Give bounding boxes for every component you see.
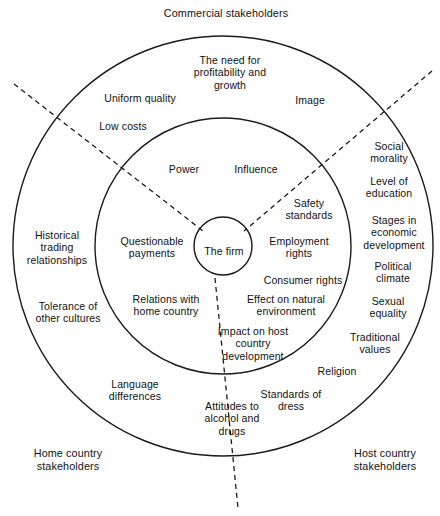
religion-label: Religion [318,365,357,377]
divider-upper-left [14,84,203,231]
questionable-payments-label: Questionable payments [120,235,183,260]
impact-on-host-country-development-label: Impact on host country development [218,325,288,362]
sexual-equality-label: Sexual equality [369,295,406,320]
consumer-rights-label: Consumer rights [264,274,343,286]
the-firm-label: The firm [204,245,243,257]
host-country-stakeholders-label: Host country stakeholders [354,447,417,472]
level-of-education-label: Level of education [366,175,412,200]
low-costs-label: Low costs [99,120,147,132]
language-differences-label: Language differences [109,378,161,403]
home-country-stakeholders-label: Home country stakeholders [34,447,103,472]
power-label: Power [169,163,199,175]
uniform-quality-label: Uniform quality [104,92,176,104]
image-label: Image [295,94,325,106]
effect-on-natural-environment-label: Effect on natural environment [247,293,325,318]
political-climate-label: Political climate [374,260,411,285]
influence-label: Influence [234,163,278,175]
traditional-values-label: Traditional values [350,331,400,356]
historical-trading-relationships-label: Historical trading relationships [27,229,87,266]
commercial-stakeholders-label: Commercial stakeholders [164,7,288,20]
sector-divider-lines [14,71,432,508]
relations-with-home-country-label: Relations with home country [133,293,200,318]
stakeholder-rings-diagram: Commercial stakeholdersHome country stak… [0,0,440,516]
divider-bottom [215,278,238,508]
social-morality-label: Social morality [370,140,408,165]
standards-of-dress-label: Standards of dress [261,388,322,413]
safety-standards-label: Safety standards [285,197,332,222]
attitudes-to-alcohol-and-drugs-label: Attitudes to alcohol and drugs [205,400,260,437]
stages-in-economic-development-label: Stages in economic development [363,214,424,251]
tolerance-of-other-cultures-label: Tolerance of other cultures [35,300,100,325]
the-need-for-profitability-and-growth-label: The need for profitability and growth [194,54,266,91]
employment-rights-label: Employment rights [269,235,328,260]
